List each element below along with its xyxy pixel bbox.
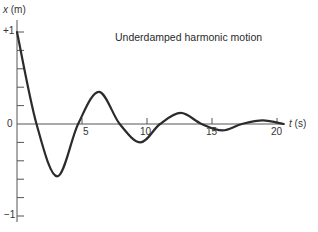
x-tick-label-20: 20: [271, 126, 282, 137]
x-tick-label-15: 15: [206, 126, 217, 137]
y-axis-unit: (m): [11, 4, 26, 15]
chart-title: Underdamped harmonic motion: [115, 31, 262, 43]
x-axis-unit: (s): [295, 118, 307, 129]
x-axis-label: t (s): [289, 118, 306, 129]
x-axis-var: t: [289, 118, 292, 129]
y-tick-label-top: +1: [3, 25, 14, 36]
y-tick-label-zero: 0: [7, 118, 13, 129]
x-tick-label-5: 5: [83, 126, 89, 137]
damped-oscillation-curve: [17, 32, 284, 176]
y-tick-label-bottom: −1: [4, 209, 15, 220]
y-axis-var: x: [3, 4, 8, 15]
x-tick-label-10: 10: [140, 126, 151, 137]
y-axis-label: x (m): [3, 4, 26, 15]
